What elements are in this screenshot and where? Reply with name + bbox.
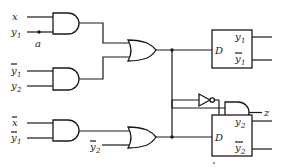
junction-or2 [170,135,173,138]
or-gate-2 [128,127,156,148]
label-ff1-q-sub: 1 [241,37,245,45]
label-ff2-qbar: y [234,142,241,153]
wire-and2-or1 [79,57,130,79]
label-ff2-q: y [234,116,241,127]
or-gate-1 [128,40,156,61]
label-ff1-d: D [214,45,223,56]
speck [213,162,215,164]
label-ff2-d: D [214,132,223,143]
wire-or2-inv [172,100,199,137]
inverter-gate [199,94,214,106]
label-ff1-qbar: y [234,53,241,64]
label-ff2-qbar-sub: 2 [240,148,246,156]
label-ff2-q-sub: 2 [240,122,246,130]
label-ff1-q: y [234,31,241,42]
label-x: x [12,11,18,22]
and-gate-1 [53,13,79,34]
wire-and1-or1 [79,23,130,43]
label-y1bar-b-sub: 1 [17,138,21,146]
label-xbar: x [12,117,18,128]
label-y2: y [10,80,17,91]
label-y2-sub: 2 [16,86,22,94]
node-a-dot [37,30,40,33]
label-y1bar-a: y [10,65,17,76]
label-y2bar-sub: 2 [95,147,101,155]
label-y1bar-b: y [10,132,17,143]
and-gate-2 [53,68,79,90]
label-y1: y [10,26,17,37]
label-y1bar-a-sub: 1 [17,71,21,79]
logic-circuit-diagram: x y 1 a y 1 y 2 x y 1 y 2 D y 1 y 1 D y … [0,0,290,168]
label-y1-sub: 1 [17,32,21,40]
and-gate-4 [53,120,79,141]
label-node-a: a [35,38,41,49]
label-ff1-qbar-sub: 1 [241,59,245,67]
label-z: z [263,107,270,118]
label-y2bar: y [89,141,96,152]
